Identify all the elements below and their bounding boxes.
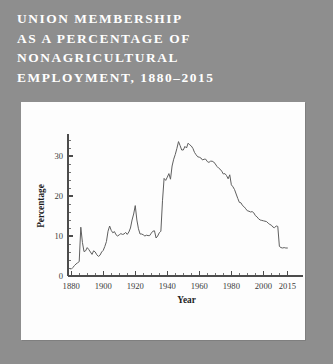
- svg-text:0: 0: [59, 271, 63, 281]
- svg-text:30: 30: [54, 151, 63, 161]
- x-axis-title: Year: [177, 295, 196, 305]
- x-axis-tick-labels: 18801900192019401960198020002015: [63, 281, 296, 291]
- svg-text:2000: 2000: [255, 281, 272, 291]
- svg-text:10: 10: [54, 231, 63, 241]
- title-line-1: UNION MEMBERSHIP: [17, 9, 317, 29]
- chart-panel: 18801900192019401960198020002015 0102030…: [21, 102, 305, 340]
- y-axis-title: Percentage: [36, 184, 46, 228]
- screenshot-root: UNION MEMBERSHIP AS A PERCENTAGE OF NONA…: [0, 0, 333, 364]
- title-line-3: NONAGRICULTURAL: [17, 48, 317, 68]
- y-axis-major-ticks: [68, 156, 73, 276]
- title-line-2: AS A PERCENTAGE OF: [17, 29, 317, 49]
- svg-text:1900: 1900: [95, 281, 112, 291]
- page-title: UNION MEMBERSHIP AS A PERCENTAGE OF NONA…: [17, 9, 317, 87]
- svg-text:1940: 1940: [159, 281, 176, 291]
- y-axis-tick-labels: 0102030: [54, 151, 63, 281]
- data-series-line: [71, 142, 287, 270]
- svg-text:1980: 1980: [223, 281, 240, 291]
- svg-text:1920: 1920: [127, 281, 144, 291]
- svg-text:1960: 1960: [191, 281, 208, 291]
- line-chart: 18801900192019401960198020002015 0102030…: [21, 102, 305, 340]
- title-line-4: EMPLOYMENT, 1880–2015: [17, 68, 317, 88]
- svg-text:1880: 1880: [63, 281, 80, 291]
- svg-text:2015: 2015: [279, 281, 296, 291]
- svg-text:20: 20: [54, 191, 63, 201]
